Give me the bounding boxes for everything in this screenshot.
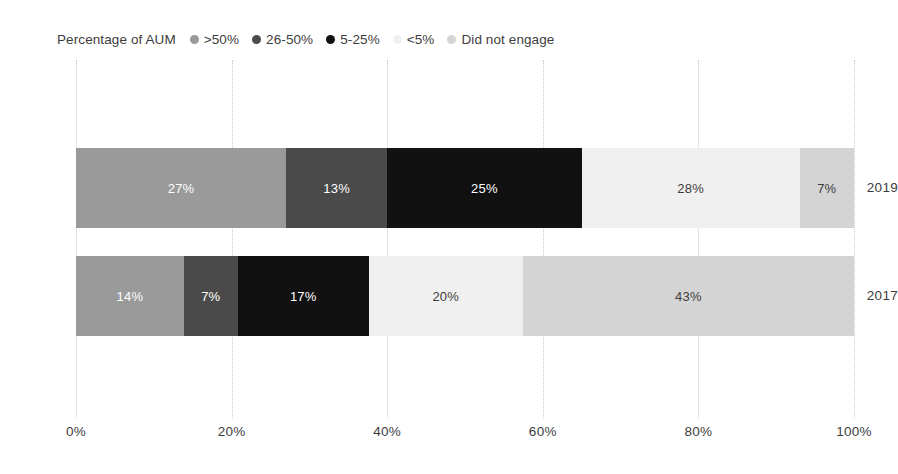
gridline	[232, 60, 234, 418]
gridline	[76, 60, 78, 418]
legend-item[interactable]: Did not engage	[447, 32, 554, 47]
legend-swatch-dot-icon	[252, 35, 261, 44]
bar-segment[interactable]: 27%	[76, 148, 286, 228]
bar-segment[interactable]: 13%	[286, 148, 387, 228]
legend-item[interactable]: <5%	[393, 32, 435, 47]
legend-item[interactable]: >50%	[190, 32, 239, 47]
bar-segment[interactable]: 28%	[582, 148, 800, 228]
legend-item-label: 26-50%	[266, 32, 313, 47]
legend-item-label: 5-25%	[340, 32, 380, 47]
x-axis-tick-label: 0%	[66, 424, 86, 439]
bar-segment-label: 28%	[677, 181, 704, 196]
plot-area: 27%13%25%28%7%14%7%17%20%43%	[76, 60, 854, 418]
bar-segment-label: 14%	[117, 289, 144, 304]
bar-segment-label: 25%	[471, 181, 498, 196]
bar-row: 27%13%25%28%7%	[76, 148, 854, 228]
x-axis-tick-label: 80%	[684, 424, 712, 439]
bar-segment-label: 7%	[201, 289, 220, 304]
legend-item[interactable]: 5-25%	[326, 32, 380, 47]
bar-segment[interactable]: 14%	[76, 256, 184, 336]
legend-item-label: Did not engage	[461, 32, 554, 47]
stacked-bar-chart: Percentage of AUM >50%26-50%5-25%<5%Did …	[0, 0, 898, 474]
legend-item-label: >50%	[204, 32, 239, 47]
legend-title: Percentage of AUM	[57, 32, 176, 47]
bar-segment-label: 20%	[432, 289, 459, 304]
legend-swatch-dot-icon	[326, 35, 335, 44]
bar-segment-label: 13%	[323, 181, 350, 196]
gridline	[543, 60, 545, 418]
bar-segment[interactable]: 20%	[369, 256, 523, 336]
x-axis-tick-label: 20%	[218, 424, 246, 439]
legend-item[interactable]: 26-50%	[252, 32, 313, 47]
y-axis-tick-label: 2019	[838, 180, 898, 195]
bar-segment-label: 27%	[168, 181, 195, 196]
bar-segment-label: 7%	[817, 181, 836, 196]
legend-items: >50%26-50%5-25%<5%Did not engage	[190, 32, 568, 47]
bar-segment-label: 17%	[290, 289, 317, 304]
y-axis-tick-label: 2017	[838, 288, 898, 303]
gridline	[698, 60, 700, 418]
gridline	[854, 60, 856, 418]
bar-segment[interactable]: 17%	[238, 256, 369, 336]
legend-swatch-dot-icon	[447, 35, 456, 44]
bar-row: 14%7%17%20%43%	[76, 256, 854, 336]
x-axis-tick-label: 100%	[836, 424, 872, 439]
legend-swatch-dot-icon	[393, 35, 402, 44]
bar-segment-label: 43%	[675, 289, 702, 304]
bar-segment[interactable]: 7%	[184, 256, 238, 336]
x-axis-tick-label: 40%	[373, 424, 401, 439]
gridline	[387, 60, 389, 418]
bar-segment[interactable]: 25%	[387, 148, 582, 228]
legend-item-label: <5%	[407, 32, 435, 47]
chart-legend: Percentage of AUM >50%26-50%5-25%<5%Did …	[57, 30, 567, 48]
bar-segment[interactable]: 43%	[523, 256, 854, 336]
x-axis-tick-label: 60%	[529, 424, 557, 439]
legend-swatch-dot-icon	[190, 35, 199, 44]
